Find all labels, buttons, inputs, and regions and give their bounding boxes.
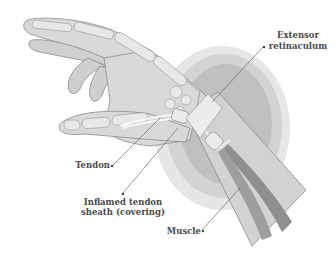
label-muscle: Muscle: [160, 226, 201, 236]
label-sheath-line2: sheath (covering): [78, 207, 168, 217]
label-extensor-line1: Extensor: [268, 30, 328, 40]
label-tendon: Tendon: [70, 160, 110, 170]
label-extensor-line2: retinaculum: [264, 41, 332, 51]
label-sheath-line1: Inflamed tendon: [78, 197, 168, 207]
